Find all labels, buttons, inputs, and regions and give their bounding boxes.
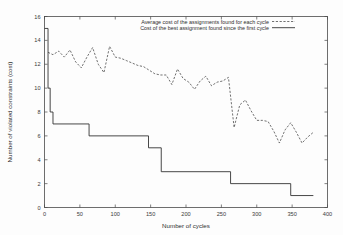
y-tick-label: 8 (37, 109, 40, 115)
x-tick-label: 200 (181, 211, 190, 217)
y-tick-label: 2 (37, 181, 40, 187)
x-tick-label: 0 (43, 211, 46, 217)
x-axis-title: Number of cycles (162, 222, 210, 229)
x-tick-label: 100 (111, 211, 120, 217)
y-tick-label: 0 (37, 205, 40, 211)
y-tick-label: 6 (37, 133, 40, 139)
y-tick-label: 16 (34, 14, 40, 20)
y-axis-title: Number of violated constraints (cost) (6, 62, 13, 163)
x-tick-label: 150 (146, 211, 155, 217)
x-tick-label: 300 (252, 211, 261, 217)
x-tick-label: 250 (217, 211, 226, 217)
plot-frame (45, 17, 328, 208)
x-tick-label: 350 (287, 211, 296, 217)
y-tick-label: 14 (34, 37, 40, 43)
y-tick-label: 4 (37, 157, 40, 163)
x-tick-label: 400 (323, 211, 332, 217)
series-best-cost-step-line (45, 28, 314, 195)
x-tick-label: 50 (77, 211, 83, 217)
chart-canvas: 0501001502002503003504000246810121416Num… (0, 0, 343, 235)
y-tick-label: 12 (34, 61, 40, 67)
chart-figure: 0501001502002503003504000246810121416Num… (0, 0, 343, 235)
legend-label-0: Average cost of the assignments found fo… (141, 19, 269, 25)
series-average-cost-line (48, 46, 313, 143)
legend-label-1: Cost of the best assignment found since … (140, 25, 269, 31)
y-tick-label: 10 (34, 85, 40, 91)
